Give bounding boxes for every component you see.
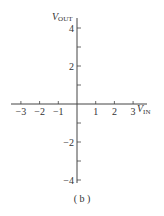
y-tick-label: −2 — [63, 137, 74, 148]
y-tick-label: 2 — [69, 61, 74, 72]
x-axis-label: VIN — [137, 103, 151, 116]
x-tick-label: −2 — [34, 106, 45, 117]
figure-caption: ( b ) — [0, 193, 164, 204]
x-tick-label: −3 — [16, 106, 27, 117]
y-tick-label: −4 — [63, 175, 74, 186]
x-tick-label: −1 — [53, 106, 64, 117]
chart-canvas: −3−2−1123 −4−224 VIN VOUT — [0, 0, 164, 216]
x-tick-label: 3 — [131, 106, 136, 117]
x-tick-label: 1 — [93, 106, 98, 117]
x-ticks: −3−2−1123 — [16, 101, 136, 117]
x-tick-label: 2 — [112, 106, 117, 117]
y-axis-label: VOUT — [52, 11, 73, 23]
y-tick-label: 4 — [69, 23, 74, 34]
